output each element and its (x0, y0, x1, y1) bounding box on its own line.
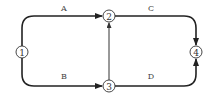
edge-b: B (22, 58, 102, 86)
edge-d: D (115, 59, 196, 86)
node-1: 1 (16, 46, 28, 58)
node-4: 4 (190, 46, 202, 58)
edge-c-arrow (115, 16, 196, 45)
edge-a: A (22, 4, 102, 46)
edge-a-arrow (22, 16, 102, 46)
edge-d-label: D (148, 72, 154, 81)
edge-b-label: B (61, 72, 67, 81)
network-diagram: A B C D 1 2 3 4 (0, 0, 212, 98)
edge-a-label: A (60, 4, 67, 13)
edge-c: C (115, 4, 196, 45)
node-1-label: 1 (19, 48, 25, 58)
node-2-label: 2 (106, 12, 112, 22)
node-3-label: 3 (106, 82, 112, 92)
node-3: 3 (103, 80, 115, 92)
node-4-label: 4 (193, 48, 199, 58)
edge-d-arrow (115, 59, 196, 86)
edge-c-label: C (148, 4, 154, 13)
node-2: 2 (103, 10, 115, 22)
